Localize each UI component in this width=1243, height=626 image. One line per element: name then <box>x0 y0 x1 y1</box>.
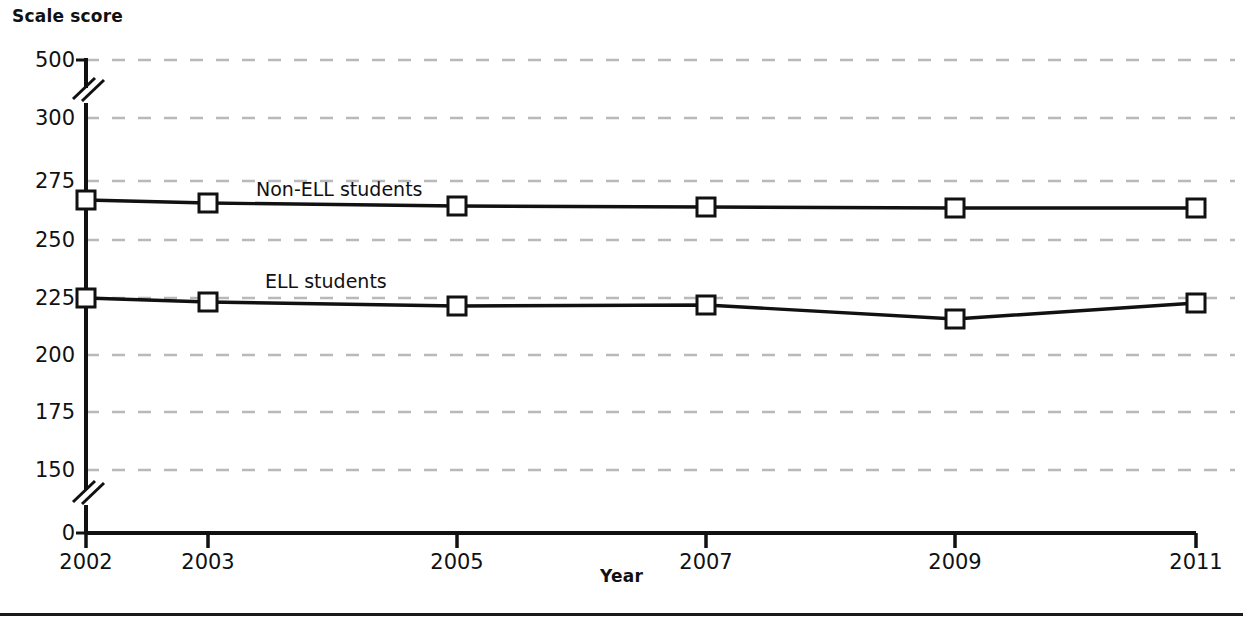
marker-non-ell-2011 <box>1187 199 1205 217</box>
series-line-non-ell <box>86 200 1196 208</box>
y-tick-label-275: 275 <box>5 169 75 193</box>
marker-non-ell-2003 <box>199 194 217 212</box>
marker-ell-2011 <box>1187 294 1205 312</box>
axis-break-lower <box>73 481 104 504</box>
x-tick-marks <box>86 533 1196 548</box>
y-tick-label-300: 300 <box>5 106 75 130</box>
marker-non-ell-2002 <box>77 191 95 209</box>
footer-rule <box>0 613 1243 616</box>
series-label-non-ell: Non-ELL students <box>256 178 422 200</box>
marker-ell-2007 <box>697 296 715 314</box>
marker-non-ell-2007 <box>697 198 715 216</box>
marker-ell-2009 <box>946 310 964 328</box>
series-label-ell: ELL students <box>265 270 387 292</box>
line-chart-plot <box>0 0 1243 626</box>
axis-break-upper <box>73 78 104 101</box>
y-tick-label-150: 150 <box>5 458 75 482</box>
marker-non-ell-2009 <box>946 199 964 217</box>
marker-ell-2003 <box>199 293 217 311</box>
series-line-ell <box>86 298 1196 319</box>
y-tick-label-200: 200 <box>5 343 75 367</box>
chart-figure: Scale score <box>0 0 1243 626</box>
y-tick-label-0: 0 <box>5 521 75 545</box>
marker-ell-2002 <box>77 289 95 307</box>
marker-ell-2005 <box>448 297 466 315</box>
series-markers-ell <box>77 289 1205 328</box>
x-axis-title: Year <box>0 566 1243 586</box>
marker-non-ell-2005 <box>448 197 466 215</box>
gridlines <box>86 60 1235 470</box>
y-tick-label-225: 225 <box>5 286 75 310</box>
y-tick-label-250: 250 <box>5 228 75 252</box>
y-tick-label-500: 500 <box>5 48 75 72</box>
y-tick-label-175: 175 <box>5 400 75 424</box>
